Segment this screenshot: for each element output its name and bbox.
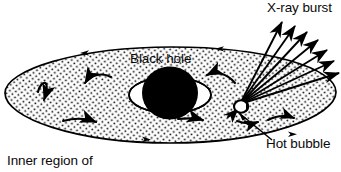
xray-burst-label: X-ray burst: [267, 1, 332, 15]
black-hole-accretion-disk-figure: X-ray burst Black hole Hot bubble Inner …: [0, 0, 341, 172]
hot-bubble-label: Hot bubble: [266, 137, 330, 151]
hot-bubble: [234, 100, 248, 112]
black-hole-label: Black hole: [130, 52, 191, 66]
hot-bubble-shading: [246, 102, 248, 111]
inner-region-caption: Inner region of: [7, 154, 93, 168]
